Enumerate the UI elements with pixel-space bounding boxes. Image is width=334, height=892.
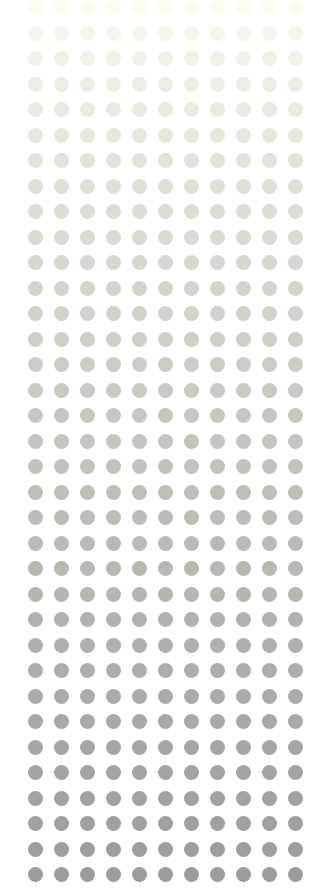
pattern-dot: [54, 332, 69, 347]
pattern-dot: [54, 714, 69, 729]
pattern-dot: [262, 689, 277, 704]
pattern-dot: [158, 740, 173, 755]
pattern-dot: [184, 561, 199, 576]
pattern-dot: [236, 77, 251, 92]
pattern-dot: [132, 204, 147, 219]
pattern-dot: [80, 842, 95, 857]
pattern-dot: [262, 459, 277, 474]
pattern-dot: [236, 357, 251, 372]
pattern-dot: [262, 77, 277, 92]
pattern-dot: [262, 153, 277, 168]
pattern-dot: [184, 689, 199, 704]
pattern-dot: [132, 638, 147, 653]
pattern-dot: [184, 255, 199, 270]
pattern-dot: [80, 765, 95, 780]
pattern-dot: [210, 765, 225, 780]
pattern-dot: [236, 128, 251, 143]
pattern-dot: [236, 714, 251, 729]
pattern-dot: [262, 332, 277, 347]
pattern-dot: [106, 408, 121, 423]
pattern-dot: [288, 765, 303, 780]
pattern-dot: [106, 459, 121, 474]
pattern-dot: [210, 714, 225, 729]
pattern-dot: [210, 561, 225, 576]
pattern-dot: [236, 0, 251, 15]
pattern-dot: [54, 77, 69, 92]
pattern-dot: [54, 153, 69, 168]
pattern-dot: [184, 306, 199, 321]
pattern-dot: [54, 459, 69, 474]
pattern-dot: [132, 51, 147, 66]
pattern-dot: [80, 612, 95, 627]
pattern-dot: [288, 383, 303, 398]
pattern-dot: [158, 867, 173, 882]
pattern-dot: [288, 230, 303, 245]
pattern-dot: [262, 383, 277, 398]
pattern-dot: [210, 128, 225, 143]
pattern-dot: [288, 816, 303, 831]
pattern-dot: [236, 383, 251, 398]
pattern-dot: [262, 281, 277, 296]
pattern-dot: [80, 587, 95, 602]
pattern-dot: [158, 102, 173, 117]
pattern-dot: [236, 791, 251, 806]
pattern-dot: [184, 765, 199, 780]
pattern-dot: [210, 485, 225, 500]
pattern-dot: [210, 204, 225, 219]
pattern-dot: [288, 510, 303, 525]
pattern-dot: [28, 408, 43, 423]
pattern-dot: [158, 612, 173, 627]
pattern-dot: [80, 485, 95, 500]
pattern-dot: [132, 408, 147, 423]
pattern-dot: [28, 587, 43, 602]
pattern-dot: [54, 587, 69, 602]
pattern-dot: [184, 77, 199, 92]
pattern-dot: [184, 281, 199, 296]
pattern-dot: [184, 459, 199, 474]
pattern-dot: [210, 510, 225, 525]
pattern-dot: [132, 536, 147, 551]
pattern-dot: [28, 51, 43, 66]
pattern-dot: [158, 791, 173, 806]
pattern-dot: [54, 663, 69, 678]
pattern-dot: [288, 536, 303, 551]
pattern-dot: [80, 0, 95, 15]
pattern-dot: [236, 204, 251, 219]
pattern-dot: [210, 689, 225, 704]
pattern-dot: [288, 740, 303, 755]
pattern-dot: [54, 791, 69, 806]
pattern-dot: [132, 26, 147, 41]
pattern-dot: [158, 434, 173, 449]
pattern-dot: [28, 306, 43, 321]
pattern-dot: [210, 281, 225, 296]
pattern-dot: [158, 561, 173, 576]
pattern-dot: [288, 459, 303, 474]
pattern-dot: [158, 816, 173, 831]
pattern-dot: [288, 587, 303, 602]
pattern-dot: [106, 357, 121, 372]
pattern-dot: [28, 485, 43, 500]
pattern-dot: [288, 306, 303, 321]
pattern-dot: [28, 434, 43, 449]
pattern-dot: [132, 102, 147, 117]
pattern-dot: [80, 689, 95, 704]
pattern-dot: [54, 281, 69, 296]
pattern-dot: [288, 485, 303, 500]
pattern-dot: [28, 867, 43, 882]
pattern-dot: [288, 204, 303, 219]
pattern-dot: [54, 765, 69, 780]
pattern-dot: [184, 102, 199, 117]
pattern-dot: [262, 714, 277, 729]
pattern-dot: [132, 383, 147, 398]
pattern-dot: [262, 816, 277, 831]
pattern-dot: [54, 536, 69, 551]
pattern-dot: [132, 434, 147, 449]
pattern-dot: [262, 842, 277, 857]
pattern-dot: [54, 689, 69, 704]
pattern-dot: [262, 663, 277, 678]
pattern-dot: [262, 638, 277, 653]
pattern-dot: [184, 128, 199, 143]
pattern-dot: [288, 255, 303, 270]
pattern-dot: [158, 255, 173, 270]
pattern-dot: [28, 740, 43, 755]
